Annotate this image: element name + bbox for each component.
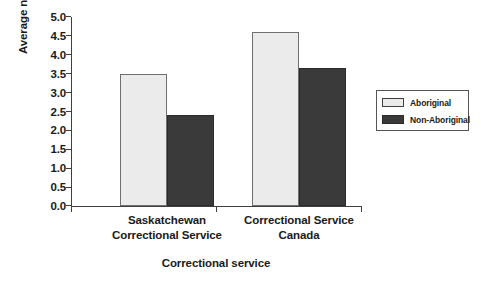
y-axis-tick-label: 3.5: [40, 68, 66, 80]
y-axis-tick-label: 0.0: [40, 200, 66, 212]
legend-swatch-non-aboriginal: [382, 115, 404, 124]
y-axis-tick-label: 2.5: [40, 106, 66, 118]
x-axis-category-label: SaskatchewanCorrectional Service: [92, 213, 242, 243]
y-axis-tick-label: 4.5: [40, 30, 66, 42]
plot-area: [71, 17, 361, 206]
y-axis-tick-label: 4.0: [40, 49, 66, 61]
bar-chart: Average number of needs 5.04.54.03.53.02…: [0, 0, 481, 281]
chart-legend: Aboriginal Non-Aboriginal: [376, 90, 469, 131]
legend-label-non-aboriginal: Non-Aboriginal: [410, 115, 470, 125]
legend-swatch-aboriginal: [382, 98, 404, 107]
x-axis-title: Correctional service: [71, 257, 361, 269]
y-axis-tick-label: 5.0: [40, 11, 66, 23]
x-axis-category-label-line: Correctional Service: [92, 228, 242, 243]
x-axis-category-label: Correctional ServiceCanada: [224, 213, 374, 243]
y-axis-title: Average number of needs: [14, 0, 32, 54]
y-axis-tick-label: 1.0: [40, 162, 66, 174]
y-axis-tick-label: 3.0: [40, 87, 66, 99]
x-axis-tick-mark: [361, 206, 362, 212]
x-axis-category-label-line: Saskatchewan: [92, 213, 242, 228]
y-axis-line: [71, 17, 72, 206]
x-axis-category-label-line: Correctional Service: [224, 213, 374, 228]
bar-aboriginal-group-1: [120, 74, 167, 206]
x-axis-tick-mark: [71, 206, 72, 212]
bar-non-aboriginal-group-1: [167, 115, 214, 206]
x-axis-category-label-line: Canada: [224, 228, 374, 243]
legend-item-aboriginal: Aboriginal: [382, 96, 468, 109]
y-axis-tick-label: 0.5: [40, 181, 66, 193]
x-axis-tick-mark: [216, 206, 217, 212]
legend-item-non-aboriginal: Non-Aboriginal: [382, 113, 468, 126]
y-axis-tick-label: 1.5: [40, 143, 66, 155]
y-axis-tick-label: 2.0: [40, 124, 66, 136]
bar-non-aboriginal-group-2: [299, 68, 346, 206]
legend-label-aboriginal: Aboriginal: [410, 98, 451, 108]
bar-aboriginal-group-2: [252, 32, 299, 206]
y-axis-tick-group: 5.04.54.03.53.02.52.01.51.00.50.0: [38, 0, 66, 281]
